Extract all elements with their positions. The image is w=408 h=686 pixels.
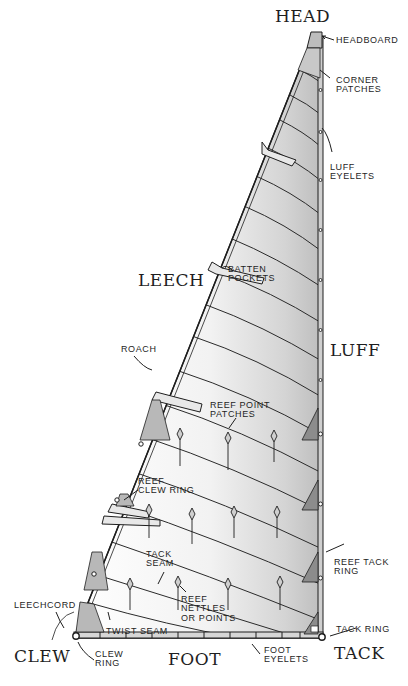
label-foot: Foot (168, 651, 221, 669)
label-foot-eyelets: Foot Eyelets (264, 646, 309, 665)
tack-ring (319, 634, 325, 640)
label-clew-ring: Clew Ring (95, 650, 123, 669)
tack-patch-star (311, 626, 318, 632)
label-reef-clew-ring: Reef Clew Ring (138, 477, 194, 496)
label-leech: Leech (138, 272, 204, 290)
label-leechcord: Leechcord (14, 601, 76, 610)
label-tack-ring: Tack Ring (336, 625, 390, 634)
label-twist-seam: Twist Seam (106, 627, 168, 636)
clew-ring (73, 633, 79, 639)
headboard (307, 32, 322, 48)
label-corner-patches: Corner Patches (336, 76, 381, 95)
label-luff: Luff (330, 342, 380, 360)
label-clew: Clew (14, 648, 70, 666)
label-luff-eyelets: Luff Eyelets (330, 163, 375, 182)
label-tack: Tack (334, 645, 384, 663)
label-reef-point-patches: Reef Point Patches (210, 401, 270, 420)
label-roach: Roach (121, 345, 157, 354)
label-head: Head (275, 8, 330, 26)
label-headboard: Headboard (336, 36, 398, 45)
label-batten-pockets: Batten Pockets (228, 265, 275, 284)
label-tack-seam: Tack Seam (146, 550, 174, 569)
label-reef-tack-ring: Reef Tack Ring (334, 558, 389, 577)
label-reef-nettles: Reef Nettles or Points (181, 595, 236, 623)
